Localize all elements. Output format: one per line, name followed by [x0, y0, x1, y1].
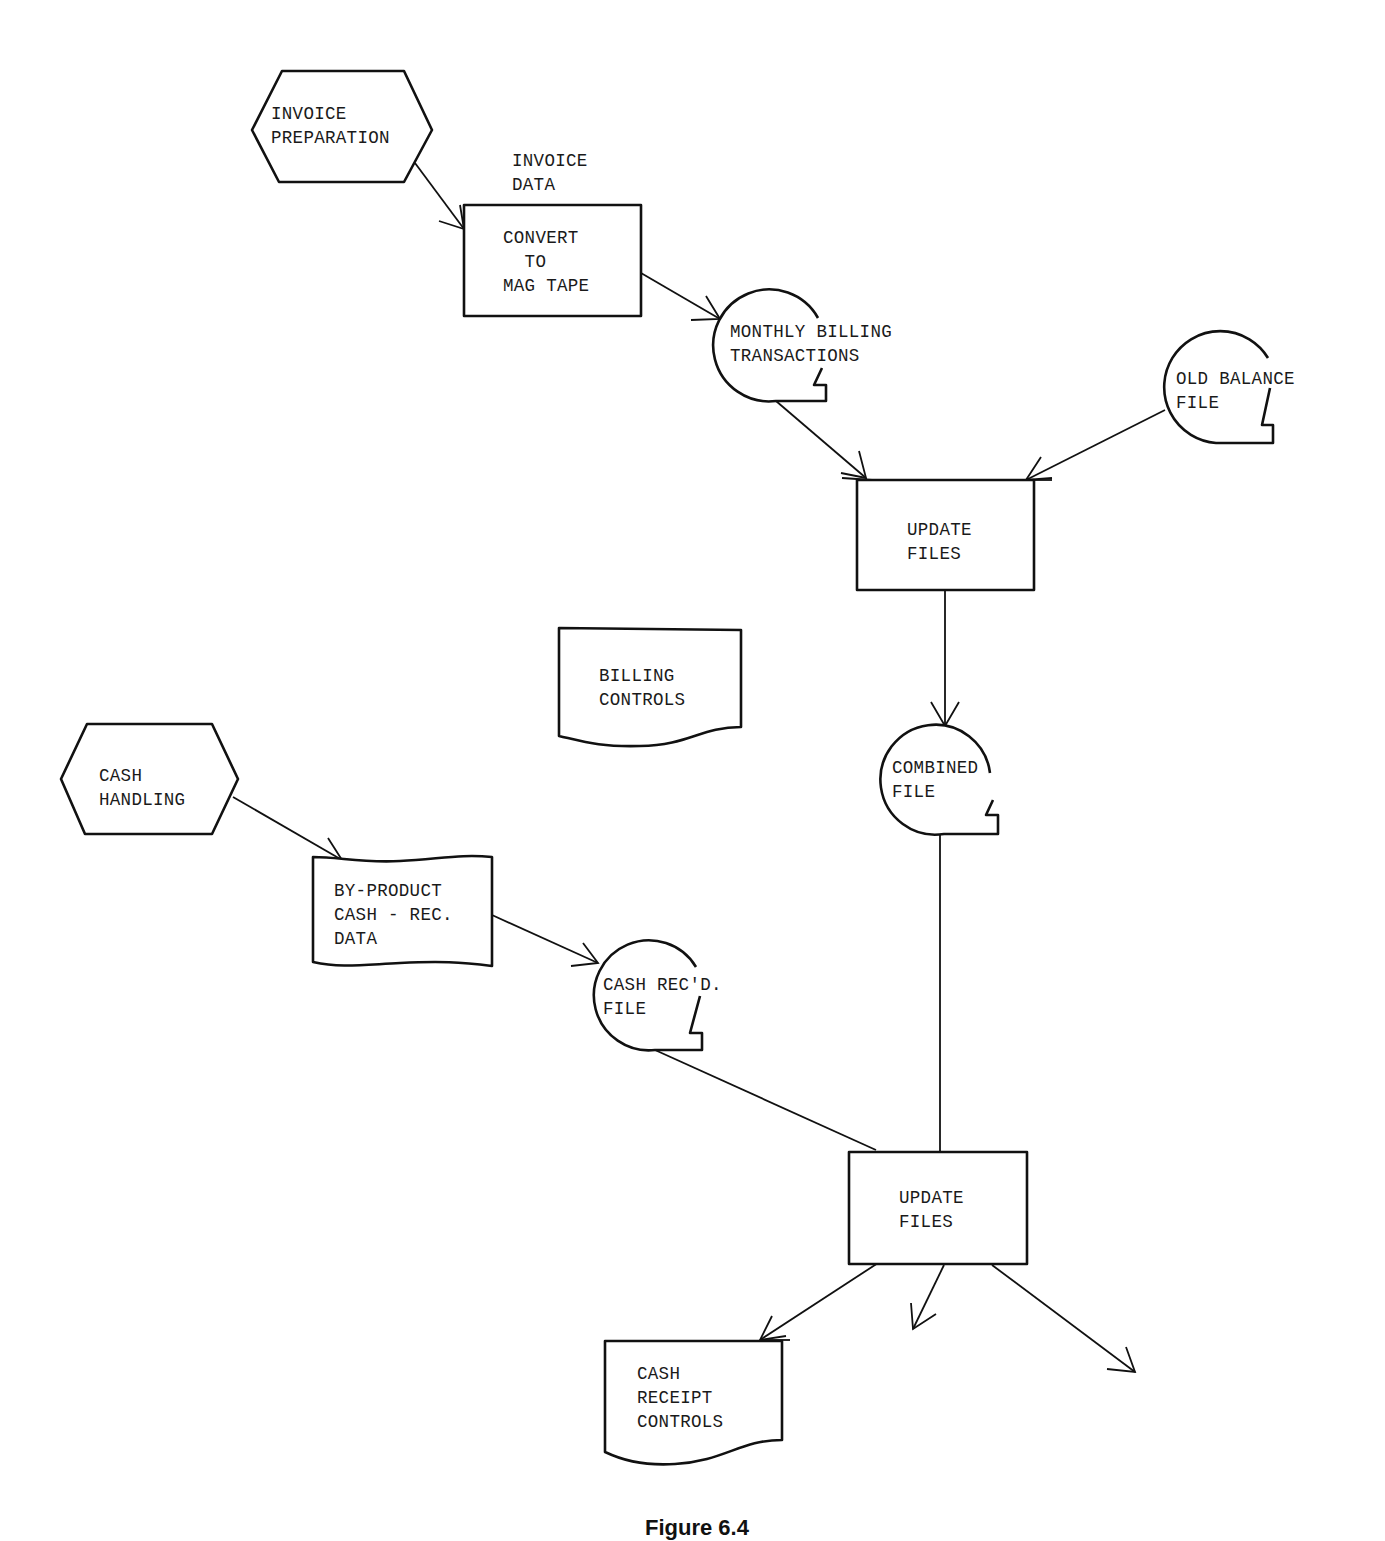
- edge-old-balance-to-update-1: [1026, 410, 1165, 480]
- convert-to-mag-tape-label: CONVERT TO MAG TAPE: [503, 226, 589, 298]
- edge-update-2-to-cash-receipt-controls: [760, 1263, 878, 1340]
- edge-invoice-prep-to-convert: [415, 163, 464, 229]
- edge-convert-to-monthly-billing: [641, 273, 720, 319]
- cash-recd-file-label: CASH REC'D. FILE: [603, 973, 722, 1021]
- arrowhead-icon: [571, 943, 598, 966]
- figure-caption: Figure 6.4: [645, 1515, 749, 1541]
- edge-update-2-to-output-2: [992, 1265, 1135, 1372]
- monthly-billing-transactions-label: MONTHLY BILLING TRANSACTIONS: [730, 320, 892, 368]
- old-balance-file-label: OLD BALANCE FILE: [1176, 367, 1295, 415]
- update-files-1-label: UPDATE FILES: [907, 518, 972, 566]
- cash-handling-label: CASH HANDLING: [99, 764, 185, 812]
- edge-cash-handling-to-by-product: [233, 797, 342, 860]
- edge-by-product-to-cash-recd: [492, 915, 598, 963]
- billing-controls-label: BILLING CONTROLS: [599, 664, 685, 712]
- edge-cash-recd-to-update-2: [655, 1050, 876, 1150]
- tick-mark: [842, 478, 872, 480]
- update-files-2-label: UPDATE FILES: [899, 1186, 964, 1234]
- invoice-data-annotation: INVOICE DATA: [512, 149, 588, 197]
- invoice-preparation-label: INVOICE PREPARATION: [271, 102, 390, 150]
- cash-receipt-controls-label: CASH RECEIPT CONTROLS: [637, 1362, 723, 1434]
- combined-file-label: COMBINED FILE: [892, 756, 978, 804]
- edge-monthly-billing-to-update-1: [776, 401, 866, 478]
- by-product-cash-rec-data-label: BY-PRODUCT CASH - REC. DATA: [334, 879, 453, 951]
